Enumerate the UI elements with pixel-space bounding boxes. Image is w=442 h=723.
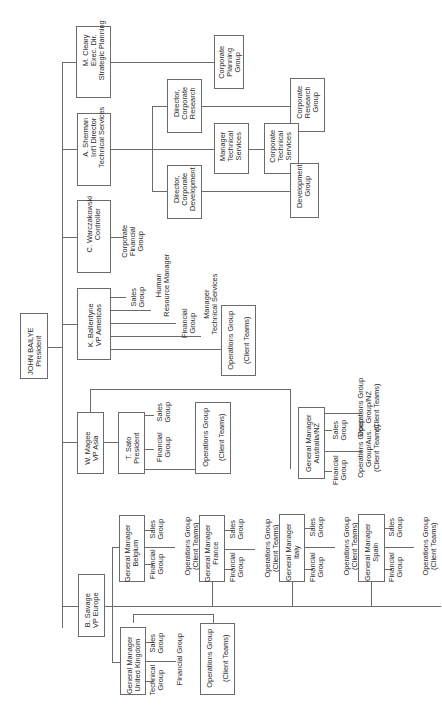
americas-operations-group-box[interactable]: Operations Group (Client Teams) — [221, 305, 256, 376]
ballentyne-box[interactable]: K. Ballentyne VP Americas — [77, 288, 111, 360]
connector — [90, 389, 91, 412]
sato-financial-group: Financial Group — [156, 429, 172, 465]
connector — [62, 606, 78, 607]
connector — [290, 389, 291, 469]
president-label: JOHN BAILYE President — [27, 318, 43, 384]
president-box[interactable]: JOHN BAILYE President — [20, 313, 48, 379]
magee-label: W. Magee VP Asia — [84, 417, 100, 479]
connector — [105, 606, 441, 607]
italy-sales-group: Sales Group — [309, 509, 325, 545]
connector — [145, 415, 154, 416]
connector — [62, 606, 63, 628]
americas-hr-manager: Human Resource Manager — [155, 249, 171, 321]
france-financial-group: Financial Group — [229, 549, 245, 585]
australia-nz-box[interactable]: General Manager Australia/NZ — [298, 407, 325, 479]
belgium-sales-group: Sales Group — [149, 511, 165, 547]
corporate-planning-label: Corporate Planning Group — [218, 35, 243, 89]
corporate-financial-group: Corporate Financial Group — [121, 216, 146, 266]
sato-operations-group-box[interactable]: Operations Group (Client Teams) — [195, 402, 231, 474]
italy-label: General Manager Italy — [285, 518, 301, 586]
connector — [384, 547, 414, 548]
connector — [112, 662, 120, 663]
sato-sales-group: Sales Group — [156, 394, 172, 430]
france-label: General Manager France — [204, 520, 220, 587]
development-group-label: Development Group — [296, 159, 312, 214]
connector — [133, 614, 213, 615]
connector — [104, 442, 118, 443]
connector — [133, 614, 134, 623]
belgium-financial-group: Financial Group — [149, 546, 165, 582]
americas-sales-group: Sales Group — [130, 282, 146, 312]
director-development-box[interactable]: Director, Corporate Development — [167, 165, 202, 219]
savage-box[interactable]: B. Savage VP Europe — [78, 574, 105, 637]
americas-financial-group: Financial Group — [181, 306, 197, 340]
americas-operations-group-label: Operations Group (Client Teams) — [227, 305, 252, 376]
magee-box[interactable]: W. Magee VP Asia — [77, 412, 104, 474]
italy-box[interactable]: General Manager Italy — [279, 514, 305, 582]
spain-label: General Manager Spain — [364, 518, 380, 586]
warczakowski-label: C. Warczakowski Controller — [86, 188, 102, 261]
aus-sales-group: Sales Group — [332, 412, 348, 448]
connector — [90, 389, 291, 390]
manager-tech-services-box[interactable]: Manager Technical Services — [214, 123, 249, 174]
connector — [112, 547, 113, 663]
development-group-box[interactable]: Development Group — [290, 163, 319, 218]
connector — [111, 349, 221, 350]
cleary-box[interactable]: M. Cleary Exec. Dir. Strategic Planning — [76, 26, 111, 98]
belgium-operations-group: Operations Group (Client Teams) — [184, 511, 200, 581]
sherman-box[interactable]: A. Sherman Int'l Director Technical Serv… — [77, 113, 111, 186]
connector — [62, 324, 77, 325]
manager-tech-services-label: Manager Technical Services — [219, 121, 244, 172]
director-research-box[interactable]: Director, Corporate Research — [167, 79, 202, 133]
connector — [62, 149, 77, 150]
savage-label: B. Savage VP Europe — [84, 579, 100, 642]
connector — [111, 297, 126, 298]
connector — [201, 106, 290, 107]
spain-financial-group: Financial Group — [388, 549, 404, 585]
sato-operations-group-label: Operations Group (Client Teams) — [202, 401, 227, 473]
americas-manager-tech-services: Manager Technical Services — [203, 261, 219, 347]
belgium-box[interactable]: General Manager Belgium — [119, 515, 145, 582]
cleary-label: M. Cleary Exec. Dir. Strategic Planning — [82, 14, 107, 86]
uk-operations-group-label: Operations Group (Client Teams) — [206, 622, 231, 694]
connector — [152, 191, 167, 192]
sato-box[interactable]: T. Sato President — [118, 412, 145, 474]
nz-operations-group: Operations Group Group/NZ (Client Teams) — [357, 368, 382, 446]
australia-nz-label: General Manager Australia/NZ — [305, 407, 321, 479]
uk-technical-group: Technical Group — [149, 662, 165, 698]
connector — [305, 547, 335, 548]
uk-financial-group: Financial Group — [176, 629, 184, 689]
warczakowski-box[interactable]: C. Warczakowski Controller — [77, 200, 111, 273]
sato-label: T. Sato President — [125, 417, 141, 479]
italy-financial-group: Financial Group — [309, 549, 325, 585]
corporate-research-group-label: Corporate Research Group — [296, 75, 321, 129]
uk-box[interactable]: General Manager United Kingdom — [120, 627, 146, 695]
france-box[interactable]: General Manager France — [199, 515, 225, 582]
uk-operations-group-box[interactable]: Operations Group (Client Teams) — [200, 623, 235, 695]
connector — [201, 191, 291, 192]
connector — [249, 149, 264, 150]
spain-operations-group: Operations Group (Client Teams) — [422, 511, 438, 581]
connector — [145, 469, 195, 470]
italy-operations-group: Operations Group (Client Teams) — [343, 511, 359, 581]
france-sales-group: Sales Group — [229, 511, 245, 547]
connector — [110, 149, 215, 150]
connector — [62, 62, 76, 63]
connector — [145, 449, 154, 450]
connector — [152, 106, 153, 192]
spain-box[interactable]: General Manager Spain — [358, 514, 385, 582]
corporate-planning-box[interactable]: Corporate Planning Group — [214, 35, 244, 89]
connector — [152, 106, 167, 107]
belgium-label: General Manager Belgium — [124, 520, 140, 587]
ballentyne-label: K. Ballentyne VP Americas — [87, 289, 103, 361]
director-research-label: Director, Corporate Research — [173, 76, 198, 130]
connector — [62, 237, 77, 238]
connector — [110, 62, 214, 63]
connector — [48, 347, 62, 348]
connector — [62, 442, 77, 443]
france-operations-group: Operations Group (Client Teams) — [264, 513, 280, 583]
aus-financial-group: Financial Group — [332, 452, 348, 488]
uk-sales-group: Sales Group — [149, 625, 165, 661]
sherman-label: A. Sherman Int'l Director Technical Serv… — [82, 101, 107, 174]
connector — [111, 323, 176, 324]
